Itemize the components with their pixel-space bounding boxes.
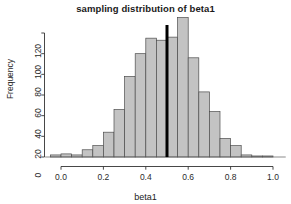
- histogram-bar: [167, 37, 178, 157]
- histogram-bar: [135, 54, 146, 157]
- y-tick-label: 120: [33, 32, 43, 70]
- histogram-bars: [50, 18, 273, 158]
- histogram-bar: [209, 112, 220, 157]
- histogram-bar: [188, 58, 199, 157]
- histogram-bar: [178, 18, 189, 158]
- histogram-bar: [114, 109, 125, 157]
- x-tick-label: 1.0: [260, 172, 286, 182]
- x-tick-label: 0.4: [133, 172, 159, 182]
- histogram-bar: [61, 154, 72, 157]
- histogram-bar: [156, 40, 167, 157]
- histogram-plot: sampling distribution of beta1 Frequency…: [0, 0, 291, 204]
- histogram-bar: [146, 38, 157, 157]
- histogram-bar: [199, 92, 210, 157]
- histogram-bar: [220, 138, 231, 157]
- x-tick-label: 0.0: [48, 172, 74, 182]
- histogram-bar: [82, 150, 93, 157]
- histogram-bar: [125, 76, 136, 157]
- histogram-bar: [231, 146, 242, 157]
- x-tick-label: 0.8: [218, 172, 244, 182]
- histogram-bar: [103, 132, 114, 157]
- x-tick-label: 0.6: [175, 172, 201, 182]
- x-axis: [61, 167, 273, 170]
- histogram-bar: [93, 146, 104, 157]
- x-tick-label: 0.2: [90, 172, 116, 182]
